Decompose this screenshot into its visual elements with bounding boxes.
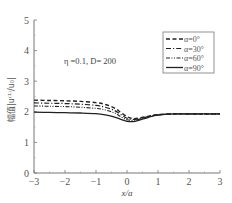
x-axis-label: x/a bbox=[121, 188, 133, 198]
x-tick-label: −2 bbox=[60, 176, 71, 187]
legend-label: α=90° bbox=[184, 64, 204, 73]
legend-label: α=30° bbox=[184, 45, 204, 54]
series-layer bbox=[34, 100, 220, 122]
x-tick-label: 1 bbox=[156, 176, 161, 187]
x-tick-label: 2 bbox=[187, 176, 192, 187]
y-tick-label: 1 bbox=[24, 137, 29, 148]
legend-label: α=60° bbox=[184, 54, 204, 63]
y-tick-label: 0 bbox=[24, 168, 29, 179]
y-tick-label: 2 bbox=[24, 106, 29, 117]
y-tick-label: 3 bbox=[24, 76, 29, 87]
legend-label: α=0° bbox=[184, 35, 200, 44]
legend: α=0°α=30°α=60°α=90° bbox=[163, 32, 214, 73]
x-tick-label: −1 bbox=[91, 176, 102, 187]
x-tick-label: 3 bbox=[218, 176, 223, 187]
x-tick-label: −3 bbox=[29, 176, 40, 187]
y-axis-label: 幅值|u⁽¹⁾/u₀| bbox=[6, 77, 16, 122]
y-tick-label: 4 bbox=[24, 45, 29, 56]
annotation: η =0.1, D= 200 bbox=[64, 56, 116, 66]
series-line-1 bbox=[34, 103, 220, 120]
chart: −3−2−10123012345 η =0.1, D= 200 x/a 幅值|u… bbox=[0, 0, 232, 203]
x-tick-label: 0 bbox=[125, 176, 130, 187]
y-tick-label: 5 bbox=[24, 15, 29, 26]
